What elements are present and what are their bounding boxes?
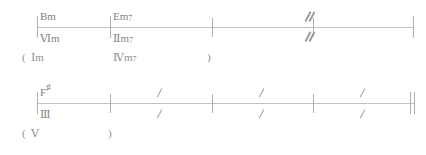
- staff-line-1: [37, 27, 414, 28]
- roman-extension: 7: [133, 55, 137, 64]
- barline: [37, 92, 38, 114]
- roman-numeral: Ⅲ: [40, 109, 51, 120]
- simile-mark-single: [358, 87, 374, 99]
- final-barline: [410, 92, 411, 114]
- paren-close: ): [207, 52, 211, 63]
- roman-quality: m: [51, 32, 60, 44]
- roman-quality: m: [124, 51, 133, 63]
- simile-mark-single: [155, 87, 171, 99]
- roman-extension: 7: [129, 36, 133, 45]
- chord-symbol: Em7: [113, 8, 132, 22]
- simile-stroke: [157, 88, 163, 97]
- simile-stroke: [259, 109, 265, 118]
- chord-root: E: [113, 10, 120, 22]
- chord-chart-sheet: Bm Em7 Ⅵm Ⅱm7 ( Ⅰm Ⅳm7 ): [0, 0, 426, 155]
- simile-stroke: [360, 109, 366, 118]
- roman-numeral: Ⅵm: [40, 33, 60, 44]
- paren-open: (: [22, 52, 26, 63]
- paren-roman-numeral: Ⅰm: [31, 52, 44, 63]
- chord-symbol: F♯: [40, 84, 51, 98]
- barline: [413, 16, 414, 38]
- barline: [212, 94, 213, 113]
- roman-numeral-figure: Ⅵ: [40, 32, 51, 44]
- simile-mark-single: [358, 108, 374, 120]
- simile-mark-single: [257, 108, 273, 120]
- paren-roman-numeral: Ⅴ: [31, 128, 39, 139]
- chord-accidental: ♯: [46, 82, 51, 92]
- barline: [110, 16, 111, 38]
- roman-numeral-figure: Ⅲ: [40, 108, 51, 120]
- paren-close: ): [108, 128, 112, 139]
- paren-open: (: [22, 128, 26, 139]
- simile-stroke: [259, 88, 265, 97]
- simile-mark-double: [305, 31, 321, 43]
- staff-line-2: [37, 103, 415, 104]
- chord-symbol: Bm: [40, 8, 56, 22]
- barline: [313, 94, 314, 113]
- chord-quality: m: [120, 10, 129, 22]
- barline: [212, 18, 213, 37]
- staff-system-1: Bm Em7 Ⅵm Ⅱm7 ( Ⅰm Ⅳm7 ): [0, 0, 426, 78]
- final-barline: [414, 92, 415, 114]
- roman-numeral: Ⅱm7: [113, 33, 133, 44]
- chord-extension: 7: [128, 14, 132, 23]
- barline: [110, 94, 111, 113]
- roman-numeral-figure: Ⅳ: [113, 51, 124, 63]
- roman-quality: m: [35, 51, 44, 63]
- simile-stroke: [360, 88, 366, 97]
- roman-numeral-figure: Ⅴ: [31, 127, 39, 139]
- barline: [37, 16, 38, 38]
- simile-mark-double: [305, 11, 321, 23]
- simile-mark-single: [155, 108, 171, 120]
- simile-stroke: [157, 109, 163, 118]
- staff-system-2: F♯ Ⅲ ( Ⅴ ): [0, 75, 426, 155]
- chord-quality: m: [47, 10, 56, 22]
- paren-roman-numeral: Ⅳm7: [113, 52, 137, 63]
- roman-quality: m: [120, 32, 129, 44]
- simile-mark-single: [257, 87, 273, 99]
